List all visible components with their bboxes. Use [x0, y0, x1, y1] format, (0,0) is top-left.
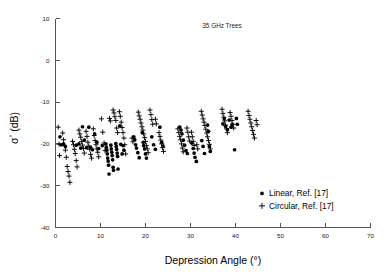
- data-point-dot: [105, 152, 109, 156]
- data-point-plus: [249, 124, 254, 129]
- y-tick-label: -30: [41, 182, 51, 189]
- data-point-dot: [134, 143, 138, 147]
- x-tick-label: 60: [322, 232, 329, 239]
- x-tick-label: 30: [187, 232, 194, 239]
- data-point-dot: [154, 147, 158, 151]
- data-point-plus: [148, 108, 153, 113]
- data-point-plus: [89, 156, 94, 161]
- x-tick-label: 0: [54, 232, 58, 239]
- data-point-plus: [229, 114, 234, 119]
- data-point-dot: [87, 125, 91, 129]
- data-point-plus: [119, 120, 124, 125]
- data-point-plus: [142, 135, 147, 140]
- data-point-plus: [77, 131, 82, 136]
- x-tick-label: 50: [277, 232, 284, 239]
- data-point-plus: [190, 134, 195, 139]
- data-point-dot: [135, 146, 139, 150]
- data-point-plus: [194, 142, 199, 147]
- legend-label: Circular, Ref. [17]: [269, 201, 334, 211]
- data-point-plus: [184, 126, 189, 131]
- data-point-plus: [157, 130, 162, 135]
- data-point-dot: [111, 158, 115, 162]
- y-axis-title: σ° (dB): [8, 112, 20, 144]
- data-point-plus: [137, 113, 142, 118]
- data-point-plus: [148, 112, 153, 117]
- data-point-dot: [112, 168, 116, 172]
- data-point-dot: [107, 172, 111, 176]
- chart-figure: 100-10-20-30-40010203040506070 35 GHz Tr…: [0, 0, 391, 278]
- data-point-plus: [255, 122, 260, 127]
- data-point-plus: [252, 136, 257, 141]
- data-point-plus: [67, 174, 72, 179]
- data-point-dot: [192, 151, 196, 155]
- data-point-dot: [115, 147, 119, 151]
- data-point-plus: [118, 114, 123, 119]
- data-point-dot: [235, 122, 239, 126]
- data-point-plus: [67, 180, 72, 185]
- data-point-plus: [63, 148, 68, 153]
- data-point-plus: [117, 109, 122, 114]
- data-point-plus: [66, 169, 71, 174]
- data-point-plus: [107, 116, 112, 121]
- legend-marker-plus: [259, 203, 265, 209]
- data-point-plus: [61, 137, 66, 142]
- data-point-plus: [91, 126, 96, 131]
- data-point-plus: [161, 149, 166, 154]
- data-point-dot: [116, 167, 120, 171]
- data-point-dot: [107, 163, 111, 167]
- data-point-plus: [123, 151, 128, 156]
- data-point-plus: [139, 121, 144, 126]
- data-point-dot: [81, 125, 85, 129]
- data-point-dot: [233, 148, 237, 152]
- data-point-dot: [195, 160, 199, 164]
- data-point-plus: [157, 134, 162, 139]
- data-point-plus: [195, 146, 200, 151]
- x-tick-label: 40: [232, 232, 239, 239]
- data-point-dot: [193, 155, 197, 159]
- data-point-plus: [111, 108, 116, 113]
- data-point-plus: [139, 124, 144, 129]
- data-point-dot: [115, 151, 119, 155]
- data-point-plus: [206, 138, 211, 143]
- data-point-plus: [85, 134, 90, 139]
- data-point-plus: [88, 152, 93, 157]
- data-point-plus: [56, 125, 61, 130]
- data-point-plus: [225, 130, 230, 135]
- data-point-plus: [100, 130, 105, 135]
- data-point-plus: [200, 113, 205, 118]
- data-point-plus: [254, 118, 259, 123]
- y-tick-label: 10: [43, 15, 50, 22]
- data-point-plus: [115, 130, 120, 135]
- data-point-plus: [95, 150, 100, 155]
- data-point-plus: [145, 146, 150, 151]
- data-point-dot: [145, 156, 149, 160]
- data-point-plus: [153, 117, 158, 122]
- data-point-plus: [247, 117, 252, 122]
- legend-label: Linear, Ref. [17]: [269, 188, 328, 198]
- data-point-plus: [136, 110, 141, 115]
- legend-marker-dot: [260, 192, 264, 196]
- y-tick-label: -20: [41, 140, 51, 147]
- data-point-plus: [73, 151, 78, 156]
- data-point-plus: [99, 116, 104, 121]
- data-point-dot: [200, 139, 204, 143]
- x-axis-title: Depression Angle (°): [165, 254, 261, 266]
- x-tick-label: 10: [97, 232, 104, 239]
- data-point-dot: [109, 143, 113, 147]
- data-point-plus: [112, 110, 117, 115]
- data-point-plus: [220, 111, 225, 116]
- data-point-dot: [137, 156, 141, 160]
- data-point-dot: [122, 148, 126, 152]
- data-point-plus: [112, 114, 117, 119]
- plot-title: 35 GHz Trees: [202, 22, 241, 29]
- data-point-dot: [235, 117, 239, 121]
- data-point-dot: [158, 125, 162, 129]
- data-points-group: [56, 107, 260, 185]
- y-tick-label: -10: [41, 98, 51, 105]
- data-point-dot: [109, 147, 113, 151]
- x-tick-label: 20: [142, 232, 149, 239]
- data-point-plus: [199, 109, 204, 114]
- data-point-plus: [74, 158, 79, 163]
- y-tick-label: 0: [46, 57, 50, 64]
- data-point-plus: [76, 128, 81, 133]
